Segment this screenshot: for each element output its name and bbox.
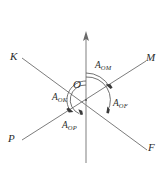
angle-label-a-op: AOP xyxy=(62,121,77,131)
arrowhead-a-op-icon xyxy=(78,109,83,115)
angle-base-a-ok: A xyxy=(52,92,58,102)
geometry-figure: K M P F O AOM AOF AOK AOP xyxy=(0,0,165,176)
angle-subscript-a-om: OM xyxy=(101,64,112,71)
ray-label-p: P xyxy=(8,133,15,144)
ray-label-k: K xyxy=(10,51,17,62)
angle-subscript-a-ok: OK xyxy=(58,96,67,103)
angle-base-a-om: A xyxy=(95,60,101,70)
vertex-label-o: O xyxy=(73,79,81,90)
angle-subscript-a-op: OP xyxy=(68,124,77,131)
arc-a-om xyxy=(86,73,110,87)
angle-label-a-om: AOM xyxy=(95,61,111,71)
angle-subscript-a-of: OF xyxy=(119,102,128,109)
ray-label-f: F xyxy=(148,142,155,153)
vertex-point-o xyxy=(85,99,87,101)
figure-canvas xyxy=(0,0,165,176)
angle-base-a-of: A xyxy=(113,98,119,108)
angle-label-a-of: AOF xyxy=(113,99,128,109)
angle-label-a-ok: AOK xyxy=(52,93,67,103)
angle-base-a-op: A xyxy=(62,120,68,130)
ray-label-m: M xyxy=(146,52,155,63)
